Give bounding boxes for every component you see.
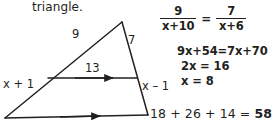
left-fraction-numerator: 9 [169,5,187,17]
solution-step-2: 2x = 16 [181,59,229,73]
left-fraction: 9 x+10 [160,5,196,33]
proportion-equation: 9 x+10 = 7 x+6 [160,5,246,33]
base-parallel-arrow [60,116,100,117]
label-upper-left-side: 9 [72,28,79,40]
prompt-text: triangle. [32,0,83,14]
label-upper-right-side: 7 [128,34,135,46]
right-fraction: 7 x+6 [216,5,246,33]
triangle-left-side [5,22,122,118]
solution-step-1: 9x+54=7x+70 [177,44,268,58]
final-answer-line: 18 + 26 + 14 = 58 [150,106,272,121]
solution-step-3: x = 8 [181,74,214,88]
label-transversal: 13 [85,62,100,74]
right-fraction-denominator: x+6 [217,19,245,32]
solution-figure-canvas: triangle. 9 7 13 x + 1 x – 1 [0,0,279,129]
final-answer-value: 58 [254,106,272,121]
label-lower-left-side: x + 1 [3,78,34,90]
final-expression: 18 + 26 + 14 = [150,106,254,121]
right-fraction-numerator: 7 [222,5,240,17]
triangle-figure: 9 7 13 x + 1 x – 1 [0,14,170,129]
worked-solution: 9 x+10 = 7 x+6 9x+54=7x+70 2x = 16 x = 8… [156,2,279,129]
left-fraction-denominator: x+10 [160,19,196,32]
proportion-equals-sign: = [201,12,211,26]
